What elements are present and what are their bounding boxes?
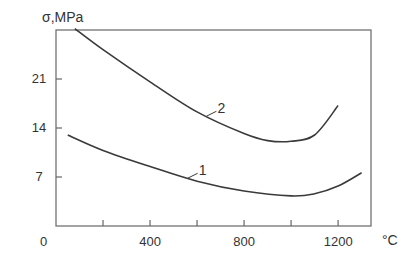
series-1-line [68,135,362,196]
chart-canvas [0,0,408,260]
plot-axes [56,30,371,226]
series-2-leader [206,111,216,116]
series-2-line [75,29,338,142]
x-tick-label: 800 [233,235,255,248]
y-tick-label: 14 [32,121,46,134]
x-tick-label: 0 [40,235,47,248]
y-axis-title: σ,MPa [42,10,83,24]
series-1-leader [188,173,198,178]
y-tick-label: 21 [32,72,46,85]
x-tick-label: 400 [139,235,161,248]
series-2-label: 2 [217,101,225,115]
y-tick-label: 7 [35,170,42,183]
x-tick-label: 1200 [324,235,353,248]
x-axis-unit: °C [382,233,398,247]
series-1-label: 1 [199,163,207,177]
plot-frame [56,30,371,226]
plot-curves [68,29,362,196]
